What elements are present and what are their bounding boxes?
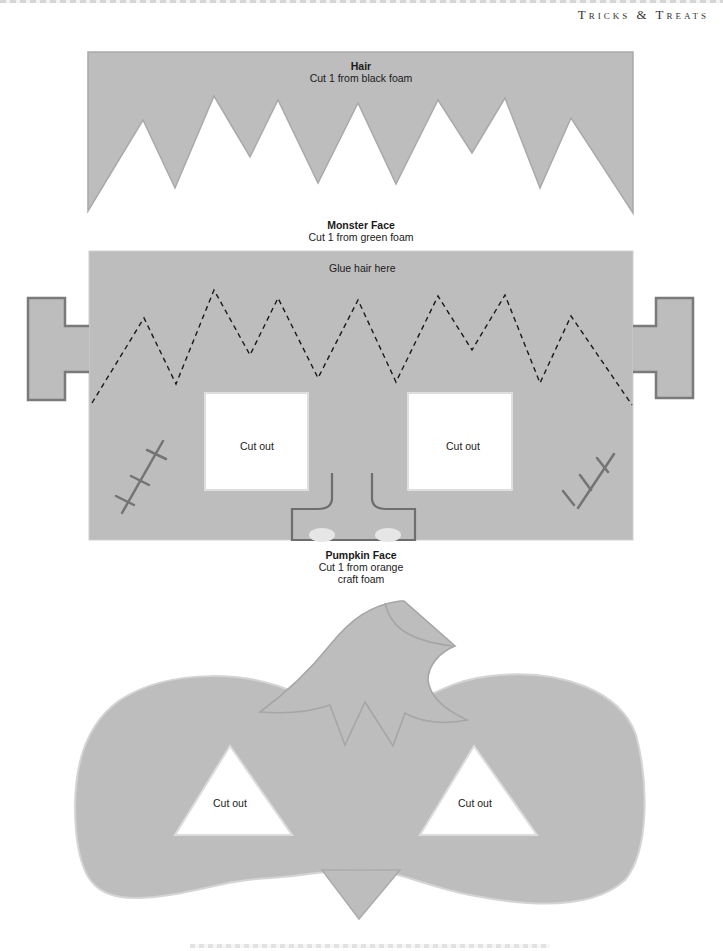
- pumpkin-face-template: [75, 601, 645, 919]
- pumpkin-face-title: Pumpkin Face: [261, 549, 461, 561]
- monster-face-template: [28, 251, 693, 542]
- page-bottom-border: [190, 944, 550, 948]
- templates-artwork: [0, 0, 723, 951]
- monster-face-title: Monster Face: [261, 219, 461, 231]
- hair-title: Hair: [261, 60, 461, 72]
- left-bolt: [28, 298, 89, 400]
- pumpkin-face-instruction-line2: craft foam: [338, 573, 385, 585]
- right-bolt: [633, 298, 693, 398]
- monster-right-eye-label: Cut out: [446, 440, 480, 452]
- monster-face-label: Monster Face Cut 1 from green foam: [261, 219, 461, 243]
- left-nostril: [309, 528, 335, 542]
- pumpkin-face-label: Pumpkin Face Cut 1 from orange craft foa…: [261, 549, 461, 585]
- hair-instruction: Cut 1 from black foam: [310, 72, 413, 84]
- pumpkin-face-instruction-line1: Cut 1 from orange: [319, 561, 404, 573]
- pumpkin-left-eye-label: Cut out: [213, 797, 247, 809]
- hair-label: Hair Cut 1 from black foam: [261, 60, 461, 84]
- monster-left-eye-label: Cut out: [240, 440, 274, 452]
- monster-face-instruction: Cut 1 from green foam: [308, 231, 413, 243]
- glue-hair-note: Glue hair here: [329, 262, 396, 274]
- pumpkin-chin-point: [322, 870, 400, 919]
- right-nostril: [375, 528, 401, 542]
- pumpkin-right-eye-label: Cut out: [458, 797, 492, 809]
